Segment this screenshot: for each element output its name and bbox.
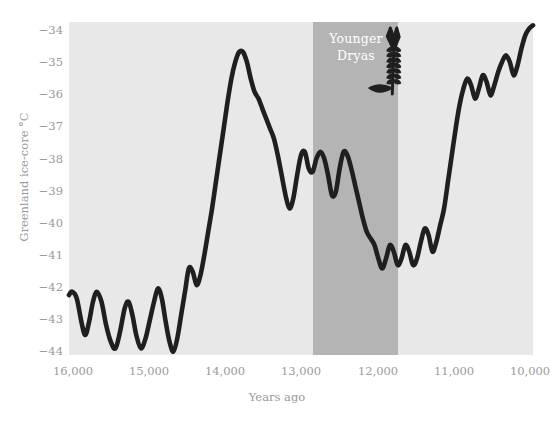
plot-area-background — [69, 22, 533, 355]
x-tick-label: 16,000 — [33, 364, 113, 378]
ice-core-temperature-chart: Younger Dryas −34 −35 −36 −37 −38 −39 −4… — [0, 0, 554, 429]
younger-dryas-label-line2: Dryas — [320, 47, 392, 64]
younger-dryas-label-line1: Younger — [320, 30, 392, 47]
x-tick-label: 12,000 — [338, 364, 418, 378]
y-tick-label: −44 — [25, 344, 63, 358]
y-tick-label: −34 — [25, 23, 63, 37]
x-tick-label: 10,000 — [490, 364, 554, 378]
y-tick-label: −43 — [25, 312, 63, 326]
younger-dryas-label: Younger Dryas — [320, 30, 392, 64]
x-tick-label: 14,000 — [185, 364, 265, 378]
x-tick-label: 11,000 — [414, 364, 494, 378]
x-tick-label: 13,000 — [261, 364, 341, 378]
y-axis-title: Greenland ice-core °C — [17, 67, 31, 287]
x-axis-title: Years ago — [0, 390, 554, 404]
younger-dryas-shaded-band — [313, 22, 398, 355]
x-tick-label: 15,000 — [109, 364, 189, 378]
